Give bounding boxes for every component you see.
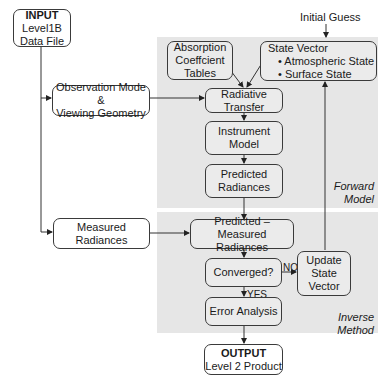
error-analysis-text: Error Analysis (210, 305, 278, 318)
input-title: INPUT (26, 9, 59, 22)
observation-line1: Observation Mode & (53, 81, 149, 107)
inverse-method-label: Inverse Method (324, 311, 374, 337)
radiative-transfer-box: Radiative Transfer (205, 88, 283, 113)
error-analysis-box: Error Analysis (205, 297, 282, 326)
no-label: NO (283, 261, 298, 274)
observation-line2: Viewing Geometry (56, 107, 146, 120)
measured-line2: Radiances (76, 234, 128, 247)
output-box: OUTPUT Level 2 Product (204, 344, 283, 375)
output-line1: Level 2 Product (205, 360, 281, 373)
state-vector-item2: • Surface State (268, 68, 352, 81)
absorption-line2: Coeffcient (175, 54, 224, 67)
update-state-vector-box: Update State Vector (297, 251, 351, 296)
state-vector-title: State Vector (268, 42, 328, 55)
update-line2: State (311, 267, 337, 280)
predicted-minus-measured-box: Predicted – Measured Radiances (190, 219, 294, 249)
measured-line1: Measured (77, 221, 126, 234)
state-vector-item1: • Atmospheric State (268, 55, 374, 68)
absorption-tables-box: Absorption Coeffcient Tables (167, 41, 233, 80)
radiative-line1: Radiative (221, 88, 267, 101)
inverse-label-line2: Method (324, 324, 374, 337)
pred-meas-line1: Predicted – Measured (191, 215, 293, 241)
inverse-label-line1: Inverse (324, 311, 374, 324)
output-title: OUTPUT (221, 347, 266, 360)
initial-guess-label: Initial Guess (300, 11, 361, 24)
converged-box: Converged? (205, 258, 282, 287)
input-line2: Data File (20, 35, 64, 48)
predicted-line1: Predicted (221, 168, 267, 181)
converged-text: Converged? (214, 266, 274, 279)
pred-meas-line2: Radiances (216, 241, 268, 254)
predicted-radiances-box: Predicted Radiances (205, 164, 283, 198)
update-line1: Update (306, 254, 341, 267)
update-line3: Vector (308, 280, 339, 293)
input-line1: Level1B (22, 22, 62, 35)
instrument-line2: Model (229, 138, 259, 151)
observation-box: Observation Mode & Viewing Geometry (52, 85, 150, 116)
predicted-line2: Radiances (218, 181, 270, 194)
state-vector-box: State Vector • Atmospheric State • Surfa… (260, 41, 377, 81)
forward-label-line1: Forward (330, 180, 374, 193)
absorption-line3: Tables (184, 67, 216, 80)
measured-radiances-box: Measured Radiances (53, 218, 150, 249)
radiative-line2: Transfer (224, 101, 265, 114)
instrument-model-box: Instrument Model (205, 121, 283, 155)
input-box: INPUT Level1B Data File (13, 9, 71, 47)
forward-model-label: Forward Model (330, 180, 374, 206)
absorption-line1: Absorption (174, 41, 227, 54)
forward-label-line2: Model (330, 193, 374, 206)
instrument-line1: Instrument (218, 125, 270, 138)
